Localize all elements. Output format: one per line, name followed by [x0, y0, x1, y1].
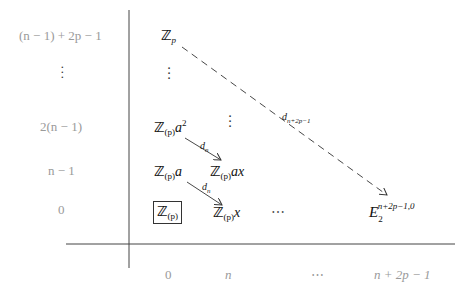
row-label-n-1: n − 1	[48, 164, 75, 177]
col-label-dots: ⋯	[311, 268, 324, 281]
entry-z-p-x: ℤ(p)x	[213, 205, 240, 222]
row-label-2n-1: 2(n − 1)	[40, 120, 82, 133]
entry-row0-hdots: ⋯	[271, 206, 285, 220]
entry-z-p-a-squared: ℤ(p)a2	[154, 119, 187, 137]
differential-label-long: dn+2p−1	[282, 112, 310, 125]
entry-z-p-ax: ℤ(p)ax	[210, 164, 244, 181]
entry-z-p-top: ℤp	[161, 28, 176, 45]
row-label-vdots: ···	[58, 64, 66, 79]
differential-label-dn-upper: dn	[200, 141, 209, 154]
entry-coln-vdots: ···	[226, 114, 234, 129]
row-label-0: 0	[58, 203, 65, 216]
differential-label-dn-lower: dn	[202, 182, 211, 195]
entry-z-p-a: ℤ(p)a	[154, 164, 182, 181]
entry-z-p-origin-boxed: ℤ(p)	[153, 201, 182, 224]
col-label-n: n	[225, 268, 232, 281]
col-label-n-2p-1: n + 2p − 1	[374, 268, 431, 281]
diagram-canvas	[0, 0, 459, 295]
entry-col0-vdots: ···	[165, 66, 173, 81]
entry-e2-target: E2n+2p−1,0	[369, 202, 415, 224]
col-label-0: 0	[165, 268, 172, 281]
row-label-top: (n − 1) + 2p − 1	[19, 29, 102, 42]
